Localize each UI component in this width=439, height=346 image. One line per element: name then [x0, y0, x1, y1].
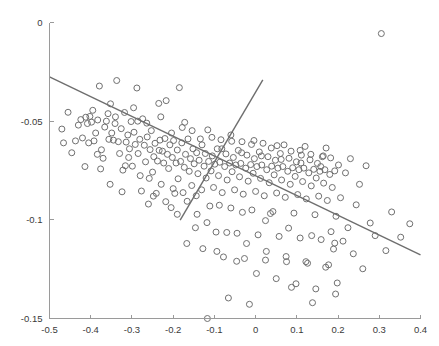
data-point	[251, 156, 257, 162]
data-point	[278, 156, 284, 162]
data-point	[313, 175, 319, 181]
data-point	[378, 31, 384, 37]
data-point	[249, 207, 255, 213]
data-point	[286, 155, 292, 161]
data-point	[338, 195, 344, 201]
plot-canvas: -0.5-0.4-0.3-0.2-0.100.10.20.30.4 0-0.05…	[0, 0, 439, 346]
data-point	[272, 157, 278, 163]
data-point	[291, 210, 297, 216]
data-point	[334, 280, 340, 286]
data-point	[180, 190, 186, 196]
data-point	[276, 233, 282, 239]
data-point	[265, 154, 271, 160]
data-point	[342, 170, 348, 176]
data-point	[328, 155, 334, 161]
data-point	[332, 168, 338, 174]
data-point	[269, 163, 275, 169]
data-point	[131, 129, 137, 135]
regression-line-layer	[50, 77, 421, 255]
data-point	[268, 145, 274, 151]
data-point	[158, 181, 164, 187]
data-point	[163, 199, 169, 205]
data-point	[216, 202, 222, 208]
data-point	[307, 157, 313, 163]
data-point	[184, 241, 190, 247]
data-point	[274, 143, 280, 149]
y-axis-tick-label: -0.15	[21, 313, 43, 324]
data-point	[105, 111, 111, 117]
data-point	[232, 187, 238, 193]
data-point	[189, 183, 195, 189]
data-point	[290, 165, 296, 171]
data-point	[286, 225, 292, 231]
x-axis-tick-label: -0.1	[206, 324, 222, 335]
data-point	[216, 173, 222, 179]
data-point	[112, 121, 118, 127]
data-point	[229, 169, 235, 175]
data-point	[303, 259, 309, 265]
data-point	[141, 142, 147, 148]
data-point	[288, 148, 294, 154]
x-axis-tick-label: -0.2	[165, 324, 181, 335]
data-point	[213, 229, 219, 235]
x-axis-tick-label: -0.3	[124, 324, 140, 335]
data-point	[360, 266, 366, 272]
scatter-plot-figure: -0.5-0.4-0.3-0.2-0.100.10.20.30.4 0-0.05…	[0, 0, 439, 346]
data-point	[174, 211, 180, 217]
data-point	[199, 142, 205, 148]
data-point	[389, 209, 395, 215]
data-point	[318, 237, 324, 243]
data-point	[244, 241, 250, 247]
data-point	[192, 225, 198, 231]
data-point	[87, 113, 93, 119]
data-point	[79, 135, 85, 141]
data-point	[145, 201, 151, 207]
data-point	[225, 295, 231, 301]
data-point	[96, 83, 102, 89]
data-point	[224, 177, 230, 183]
data-point	[207, 203, 213, 209]
data-point	[95, 117, 101, 123]
data-point	[333, 291, 339, 297]
primary-regression-line	[50, 77, 421, 255]
data-point	[277, 151, 283, 157]
data-point	[184, 198, 190, 204]
data-point	[131, 105, 137, 111]
data-point	[158, 114, 164, 120]
data-point	[118, 126, 124, 132]
data-point	[114, 78, 120, 84]
data-point	[65, 109, 71, 115]
y-axis-tick-label: -0.05	[21, 116, 43, 127]
data-point	[292, 173, 298, 179]
data-point	[155, 158, 161, 164]
data-point	[197, 136, 203, 142]
data-point	[168, 205, 174, 211]
data-point	[201, 163, 207, 169]
data-point	[332, 240, 338, 246]
data-point	[102, 124, 108, 130]
data-point	[137, 173, 143, 179]
data-point	[263, 257, 269, 263]
data-point	[90, 107, 96, 113]
data-point	[335, 162, 341, 168]
secondary-regression-line	[180, 80, 263, 220]
data-point	[263, 218, 269, 224]
data-point	[255, 232, 261, 238]
data-point	[219, 190, 225, 196]
data-point	[313, 286, 319, 292]
data-point	[112, 114, 118, 120]
data-point	[260, 140, 266, 146]
data-point	[125, 132, 131, 138]
data-point	[156, 100, 162, 106]
data-point	[308, 151, 314, 157]
data-point	[329, 184, 335, 190]
data-point	[407, 221, 413, 227]
y-axis-tick-label: -0.1	[26, 214, 42, 225]
data-point	[308, 183, 314, 189]
data-point	[293, 281, 299, 287]
data-point	[86, 140, 92, 146]
data-point	[253, 271, 259, 277]
data-point	[263, 248, 269, 254]
data-point	[200, 246, 206, 252]
data-point	[363, 163, 369, 169]
